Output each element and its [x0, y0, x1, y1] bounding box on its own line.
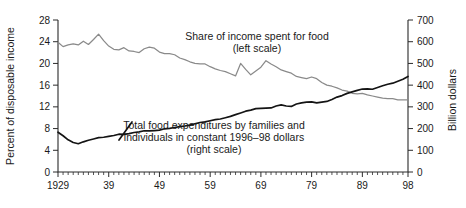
y-left-tick-label: 24: [39, 36, 51, 47]
x-tick-label: 59: [205, 180, 217, 191]
annotation-line: individuals in constant 1996–98 dollars: [124, 131, 304, 143]
y-axis-title: Percent of disposable income: [4, 27, 16, 165]
y-right-tick-label: 300: [417, 101, 434, 112]
y-left-tick-label: 16: [39, 80, 51, 91]
y-left-tick-label: 8: [44, 123, 50, 134]
y-right-tick-label: 500: [417, 58, 434, 69]
y-left-tick-label: 0: [44, 167, 50, 178]
x-tick-label: 39: [103, 180, 115, 191]
food-expenditure-chart: 1929394959697989980481216202428010020030…: [0, 0, 466, 208]
expenditures-annotation: Total food expenditures by families andi…: [123, 119, 305, 155]
x-tick-label: 98: [402, 180, 414, 191]
share-annotation: Share of income spent for food(left scal…: [185, 30, 329, 54]
y-right-tick-label: 0: [417, 167, 423, 178]
annotations-group: Share of income spent for food(left scal…: [119, 30, 329, 155]
annotation-line: Share of income spent for food: [185, 30, 329, 42]
y-right-tick-label: 200: [417, 123, 434, 134]
x-tick-label: 1929: [47, 180, 70, 191]
y-left-tick-label: 4: [44, 145, 50, 156]
y-right-tick-label: 400: [417, 80, 434, 91]
annotation-line: (right scale): [187, 143, 242, 155]
x-tick-label: 79: [306, 180, 318, 191]
x-tick-label: 49: [154, 180, 166, 191]
y-left-tick-label: 28: [39, 15, 51, 26]
x-tick-label: 69: [255, 180, 267, 191]
annotation-line: (left scale): [233, 42, 281, 54]
y-right-tick-label: 100: [417, 145, 434, 156]
y-left-tick-label: 12: [39, 101, 51, 112]
y-right-tick-label: 600: [417, 36, 434, 47]
y-left-tick-label: 20: [39, 58, 51, 69]
annotation-line: Total food expenditures by families and: [123, 119, 305, 131]
x-tick-label: 89: [357, 180, 369, 191]
y-right-tick-label: 700: [417, 15, 434, 26]
chart-canvas: 1929394959697989980481216202428010020030…: [0, 0, 466, 208]
y2-axis-title: Billion dollars: [446, 69, 458, 131]
